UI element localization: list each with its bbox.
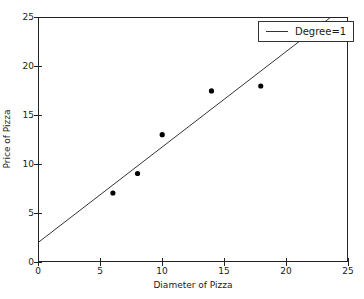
y-tick-label: 0 xyxy=(28,257,34,267)
x-tick-label: 25 xyxy=(342,266,353,276)
y-axis-title: Price of Pizza xyxy=(2,109,12,168)
x-tick-mark-inner xyxy=(286,258,287,262)
data-point xyxy=(209,88,214,93)
plot-area xyxy=(38,17,348,262)
y-tick-label: 25 xyxy=(23,12,34,22)
x-tick-mark-inner xyxy=(100,258,101,262)
x-tick-mark-inner xyxy=(162,258,163,262)
data-point xyxy=(258,83,263,88)
legend-item-label: Degree=1 xyxy=(295,26,346,37)
legend: Degree=1 xyxy=(258,21,354,42)
x-tick-mark-inner xyxy=(348,258,349,262)
pizza-price-scatter-chart: 0510152025 0510152025 Diameter of Pizza … xyxy=(0,0,364,299)
x-tick-label: 20 xyxy=(280,266,291,276)
x-tick-label: 10 xyxy=(156,266,167,276)
x-tick-label: 0 xyxy=(35,266,41,276)
y-tick-label: 5 xyxy=(28,208,34,218)
y-tick-mark-inner xyxy=(38,164,42,165)
y-tick-mark-inner xyxy=(38,115,42,116)
x-tick-label: 15 xyxy=(218,266,229,276)
y-tick-mark-inner xyxy=(38,262,42,263)
data-point xyxy=(135,171,140,176)
x-axis-title: Diameter of Pizza xyxy=(38,280,348,290)
y-tick-label: 10 xyxy=(23,159,34,169)
x-tick-mark-inner xyxy=(224,258,225,262)
data-point xyxy=(160,132,165,137)
y-tick-label: 15 xyxy=(23,110,34,120)
y-tick-mark-inner xyxy=(38,213,42,214)
plot-canvas xyxy=(39,18,347,261)
data-point xyxy=(110,190,115,195)
y-tick-label: 20 xyxy=(23,61,34,71)
legend-line-swatch xyxy=(266,31,288,32)
y-tick-mark-inner xyxy=(38,66,42,67)
x-tick-label: 5 xyxy=(97,266,103,276)
y-tick-mark-inner xyxy=(38,17,42,18)
regression-line xyxy=(39,18,347,242)
